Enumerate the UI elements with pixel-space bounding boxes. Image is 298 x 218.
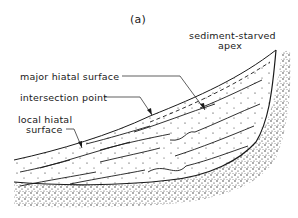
local-hiatal-label-line2: surface <box>26 124 63 135</box>
apex-label-line2: apex <box>218 40 242 51</box>
intersection-leader <box>104 97 152 115</box>
intersection-point-label: intersection point <box>20 92 107 103</box>
panel-label: (a) <box>130 14 146 25</box>
major-hiatal-label: major hiatal surface <box>20 71 119 82</box>
